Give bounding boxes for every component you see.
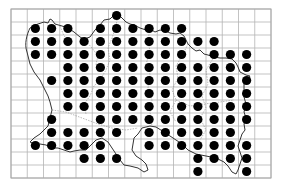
record-dot [145, 128, 154, 137]
record-dot [177, 37, 186, 46]
record-dot [47, 76, 56, 85]
record-dot [145, 102, 154, 111]
record-dot [31, 37, 40, 46]
record-dot [210, 89, 219, 98]
record-dot [145, 37, 154, 46]
record-dot [128, 63, 137, 72]
record-dot [161, 63, 170, 72]
record-dot [177, 128, 186, 137]
record-dot [96, 37, 105, 46]
record-dot [112, 63, 121, 72]
record-dot [161, 89, 170, 98]
record-dot [161, 128, 170, 137]
record-dot [80, 154, 89, 163]
record-dot [80, 76, 89, 85]
record-dot [161, 141, 170, 150]
record-dot [63, 50, 72, 59]
record-dot [161, 76, 170, 85]
record-dot [112, 115, 121, 124]
record-dot [210, 154, 219, 163]
record-dot [161, 115, 170, 124]
record-dot [145, 89, 154, 98]
record-dot [80, 89, 89, 98]
record-dot [96, 102, 105, 111]
record-dot [96, 76, 105, 85]
record-dot [242, 167, 251, 176]
record-dot [161, 102, 170, 111]
record-dot [210, 37, 219, 46]
record-dot [242, 154, 251, 163]
record-dot [242, 115, 251, 124]
record-dot [145, 141, 154, 150]
record-dot [96, 115, 105, 124]
record-dot [128, 24, 137, 33]
record-dot [210, 115, 219, 124]
record-dot [226, 76, 235, 85]
record-dot [242, 76, 251, 85]
record-dot [161, 50, 170, 59]
record-dot [47, 141, 56, 150]
record-dot [193, 102, 202, 111]
record-dot [47, 24, 56, 33]
record-dot [242, 89, 251, 98]
record-dot [112, 102, 121, 111]
record-dot [161, 37, 170, 46]
record-dot [96, 50, 105, 59]
record-dot [193, 89, 202, 98]
record-dot [80, 63, 89, 72]
record-dot [226, 154, 235, 163]
record-dot [80, 102, 89, 111]
record-dot [210, 50, 219, 59]
record-dot [31, 50, 40, 59]
record-dot [47, 50, 56, 59]
record-dot [193, 167, 202, 176]
record-dot [210, 102, 219, 111]
record-dot [193, 154, 202, 163]
record-dot [128, 37, 137, 46]
record-dot [193, 76, 202, 85]
record-dot [128, 89, 137, 98]
record-dot [112, 76, 121, 85]
record-dot [226, 128, 235, 137]
record-dot [242, 50, 251, 59]
record-dot [242, 63, 251, 72]
record-dot [145, 50, 154, 59]
record-dot [128, 102, 137, 111]
record-dot [177, 102, 186, 111]
record-dot [63, 63, 72, 72]
record-dot [226, 63, 235, 72]
record-dot [193, 128, 202, 137]
record-dot [177, 50, 186, 59]
record-dot [96, 24, 105, 33]
record-dot [96, 141, 105, 150]
record-dot [145, 24, 154, 33]
record-dot [112, 37, 121, 46]
record-dot [177, 76, 186, 85]
record-dot [128, 115, 137, 124]
record-dot [47, 115, 56, 124]
record-dot [193, 37, 202, 46]
record-dot [177, 24, 186, 33]
record-dot [193, 63, 202, 72]
record-dot [193, 141, 202, 150]
record-dot [128, 76, 137, 85]
record-dot [63, 128, 72, 137]
record-dot [177, 115, 186, 124]
record-dot [80, 128, 89, 137]
record-dot [210, 76, 219, 85]
record-dot [128, 50, 137, 59]
record-dot [80, 50, 89, 59]
parish-boundaries [52, 14, 234, 140]
record-dot [80, 141, 89, 150]
record-dot [226, 115, 235, 124]
record-dot [31, 24, 40, 33]
record-dot [63, 102, 72, 111]
record-dot [210, 128, 219, 137]
record-dot [226, 102, 235, 111]
record-dot [63, 141, 72, 150]
record-dot [31, 141, 40, 150]
record-dot [112, 128, 121, 137]
record-dot [112, 11, 121, 20]
record-dot [96, 154, 105, 163]
record-dot [47, 37, 56, 46]
